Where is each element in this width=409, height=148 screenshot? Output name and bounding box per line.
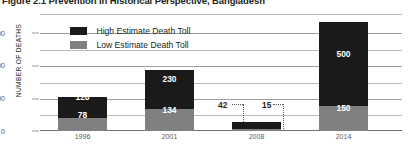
legend-label-low-estimate: Low Estimate Death Toll <box>96 40 188 50</box>
leader-line-vertical-42 <box>243 104 244 122</box>
gridline-700 <box>40 14 402 15</box>
bar-value-low-1996: 78 <box>58 110 107 120</box>
figure-title: Figure 2.1 Prevention in Historical Pers… <box>2 0 265 6</box>
bar-value-high-1996: 128 <box>58 92 107 102</box>
legend-item-high-estimate[interactable]: High Estimate Death Toll <box>70 21 190 35</box>
bar-group-2008[interactable] <box>232 122 281 132</box>
bar-segment-high-2008[interactable] <box>232 122 281 129</box>
bar-value-high-2008: 42 <box>218 100 227 110</box>
bar-segment-low-1996[interactable] <box>58 118 107 131</box>
bar-value-low-2008: 15 <box>262 100 271 110</box>
legend-swatch-high-estimate <box>70 27 87 35</box>
x-tick-label-2014: 2014 <box>319 133 368 140</box>
y-tick-mark-600 <box>32 33 39 34</box>
bar-segment-low-2008[interactable] <box>232 129 281 132</box>
bar-group-1996[interactable]: 128 78 <box>58 97 107 131</box>
leader-line-horizontal-42 <box>232 104 243 105</box>
bar-segment-high-2014[interactable] <box>319 22 368 106</box>
chart-legend: High Estimate Death Toll Low Estimate De… <box>70 21 190 49</box>
x-tick-label-1996: 1996 <box>58 133 107 140</box>
leader-line-horizontal-15 <box>273 104 283 105</box>
leader-line-vertical-15 <box>283 104 284 131</box>
y-tick-mark-200 <box>32 99 39 100</box>
y-axis-title: NUMBER OF DEATHS <box>15 16 22 106</box>
y-tick-label-200: 200 <box>0 95 5 102</box>
bar-value-low-2014: 150 <box>319 103 368 113</box>
figure-container: Figure 2.1 Prevention in Historical Pers… <box>0 0 409 148</box>
y-tick-mark-0 <box>32 131 39 132</box>
bar-value-high-2001: 230 <box>145 74 194 84</box>
y-tick-label-400: 400 <box>0 62 5 69</box>
bar-group-2001[interactable]: 230 134 <box>145 70 194 131</box>
legend-swatch-low-estimate <box>70 41 87 49</box>
y-tick-mark-400 <box>32 66 39 67</box>
bar-value-high-2014: 500 <box>319 49 368 59</box>
legend-item-low-estimate[interactable]: Low Estimate Death Toll <box>70 35 190 49</box>
bar-group-2014[interactable]: 500 150 <box>319 22 368 131</box>
bar-value-low-2001: 134 <box>145 105 194 115</box>
y-tick-label-0: 0 <box>0 128 5 135</box>
x-tick-label-2001: 2001 <box>145 133 194 140</box>
x-tick-label-2008: 2008 <box>232 133 281 140</box>
y-tick-label-600: 600 <box>0 30 5 37</box>
